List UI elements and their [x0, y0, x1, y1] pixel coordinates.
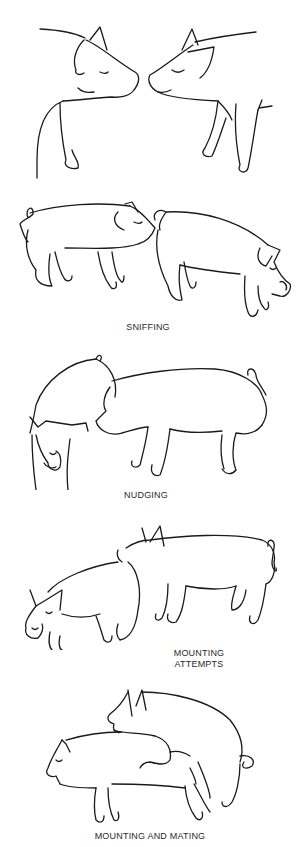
pig-courtship-illustration: SNIFFING NUDGING	[0, 0, 299, 847]
panel-sniffing-drawing	[0, 190, 299, 320]
label-nudging: NUDGING	[116, 490, 176, 501]
label-sniffing: SNIFFING	[118, 322, 178, 333]
label-mounting-attempts: MOUNTING ATTEMPTS	[160, 648, 238, 670]
panel-nudging-drawing	[0, 345, 299, 490]
panel-mounting-mating-drawing	[0, 680, 299, 830]
panel-mounting-attempts-drawing	[0, 510, 299, 650]
label-mounting-and-mating: MOUNTING AND MATING	[74, 831, 226, 842]
label-mounting-attempts-line-1: MOUNTING	[160, 648, 238, 659]
panel-nose-to-nose-drawing	[0, 0, 299, 190]
label-mounting-attempts-line-2: ATTEMPTS	[160, 659, 238, 670]
